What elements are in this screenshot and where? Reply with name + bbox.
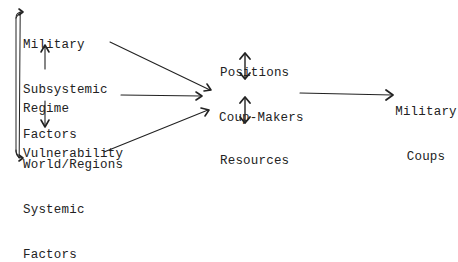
bracket-bidirectional-arrow	[16, 9, 23, 161]
coupmakers-to-coups-arrow	[300, 90, 393, 100]
node-military-coups: Military Coups	[394, 75, 458, 195]
military-to-coupmakers-arrow	[110, 42, 211, 91]
node-line: Military	[394, 105, 458, 120]
node-line: Factors	[23, 248, 123, 262]
node-resources: Resources	[220, 124, 289, 199]
node-label: Resources	[220, 154, 289, 169]
node-line: Systemic	[23, 203, 123, 218]
node-line: Coups	[394, 150, 458, 165]
node-world-regions-systemic-factors: World/Regions Systemic Factors	[23, 128, 123, 262]
node-line: Military	[23, 38, 108, 53]
node-label: Positions	[220, 66, 289, 81]
node-line: Regime	[23, 102, 123, 117]
regime-to-coupmakers-arrow	[121, 92, 202, 100]
node-line: World/Regions	[23, 158, 123, 173]
